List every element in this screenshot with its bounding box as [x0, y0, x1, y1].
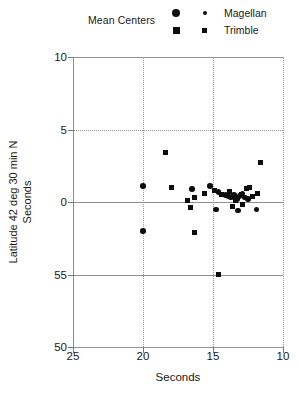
tick-y-10	[68, 57, 74, 58]
ytick-label-0: 0	[61, 196, 67, 208]
magellan-circle-icon	[203, 11, 207, 15]
data-point-magellan	[235, 208, 241, 214]
legend-label-magellan: Magellan	[224, 7, 267, 19]
data-point-trimble	[240, 202, 245, 207]
data-point-trimble	[202, 191, 207, 196]
xtick-label-25: 25	[67, 350, 80, 362]
data-point-trimble	[233, 198, 238, 203]
data-point-magellan	[254, 207, 260, 213]
trimble-square-icon	[202, 28, 207, 33]
data-point-trimble	[230, 204, 235, 209]
data-point-trimble	[212, 188, 217, 193]
tick-y-5	[68, 130, 74, 131]
xtick-label-20: 20	[137, 350, 150, 362]
data-point-trimble	[188, 205, 193, 210]
data-point-trimble	[258, 160, 263, 165]
data-point-trimble	[192, 195, 197, 200]
data-point-magellan	[213, 207, 219, 213]
data-point-trimble	[247, 185, 252, 190]
data-point-trimble	[216, 272, 221, 277]
plot-area: 10505550 25201510	[73, 57, 283, 347]
data-point-trimble	[219, 192, 224, 197]
tick-y-55	[68, 275, 74, 276]
data-point-trimble	[169, 185, 174, 190]
chart-legend: Mean Centers Magellan Trimble	[88, 4, 296, 40]
ytick-label-5: 5	[61, 124, 67, 136]
data-point-magellan	[140, 228, 146, 234]
gridline-x-20	[143, 57, 144, 347]
xtick-label-15: 15	[207, 350, 220, 362]
data-point-trimble	[239, 192, 244, 197]
ytick-label-10: 10	[54, 51, 67, 63]
ytick-label-55: 55	[54, 269, 67, 281]
gridline-x-15	[213, 57, 214, 347]
gridline-y-0	[73, 202, 283, 203]
data-point-magellan	[189, 186, 195, 192]
data-point-trimble	[163, 150, 168, 155]
mean-center-circle-icon	[172, 9, 180, 17]
gridline-y-55	[73, 275, 283, 276]
scatter-chart: Mean Centers Magellan Trimble 10505550 2…	[0, 0, 299, 395]
y-axis-title-line1: Latitude 42 deg 30 min N	[6, 141, 20, 264]
gridline-y-10	[73, 57, 283, 58]
xtick-label-10: 10	[277, 350, 290, 362]
data-point-trimble	[227, 189, 232, 194]
x-axis-title: Seconds	[73, 371, 283, 383]
legend-label-trimble: Trimble	[224, 24, 259, 36]
data-point-trimble	[192, 230, 197, 235]
data-point-magellan	[140, 183, 146, 189]
mean-center-square-icon	[173, 27, 180, 34]
y-axis-title: Latitude 42 deg 30 min N Seconds	[3, 57, 37, 347]
ytick-label-50: 50	[54, 341, 67, 353]
y-axis-title-line2: Seconds	[20, 141, 34, 264]
data-point-trimble	[185, 198, 190, 203]
gridline-y-5	[73, 130, 283, 131]
data-point-trimble	[255, 191, 260, 196]
tick-y-0	[68, 202, 74, 203]
gridline-x-10	[283, 57, 284, 347]
gridline-y-50	[73, 347, 283, 348]
data-point-trimble	[250, 194, 255, 199]
legend-title: Mean Centers	[88, 14, 155, 26]
